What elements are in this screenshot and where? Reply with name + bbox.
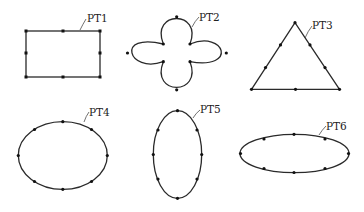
pt4-points [17, 120, 109, 191]
pt5-points [152, 109, 204, 200]
shape-pt4-ellipse: PT4 [17, 106, 110, 191]
label-pt6: PT6 [326, 120, 347, 132]
label-pt4: PT4 [89, 106, 110, 118]
shape-pt5-ellipse: PT5 [152, 103, 221, 200]
label-pt5: PT5 [200, 103, 221, 115]
shape-pt2-four-leaf: PT2 [126, 11, 228, 91]
shape-pt3-triangle: PT3 [250, 19, 341, 91]
shapes-diagram: PT1 PT2 PT3 [0, 0, 364, 212]
pt3-points [250, 21, 341, 91]
label-pt2: PT2 [199, 11, 220, 23]
label-pt1: PT1 [87, 12, 108, 24]
pt1-points [25, 30, 102, 79]
pt2-points [126, 15, 228, 91]
pt6-points [239, 133, 350, 174]
shape-pt1-rectangle: PT1 [25, 12, 108, 79]
label-pt3: PT3 [312, 19, 333, 31]
shape-pt6-ellipse: PT6 [239, 120, 350, 174]
